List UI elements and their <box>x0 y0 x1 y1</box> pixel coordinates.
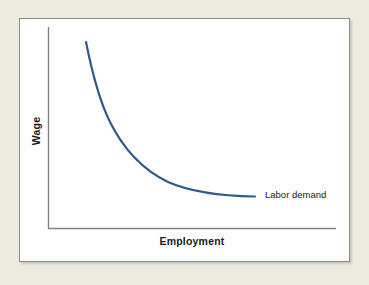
figure-root: Wage Employment Labor demand <box>0 0 369 285</box>
labor-demand-label: Labor demand <box>265 189 326 200</box>
y-axis-title: Wage <box>30 93 42 169</box>
x-axis-title: Employment <box>48 235 336 247</box>
chart-panel <box>19 18 350 262</box>
